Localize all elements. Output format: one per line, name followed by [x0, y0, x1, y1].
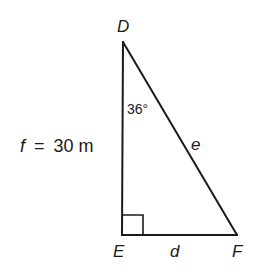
side-f-value: 30 m — [54, 136, 94, 156]
vertex-label-D: D — [117, 17, 129, 36]
side-f-DE — [122, 42, 123, 235]
vertex-label-F: F — [232, 242, 244, 261]
side-f-name: f — [20, 136, 27, 156]
angle-label-D: 36° — [127, 101, 148, 117]
right-triangle-diagram: D E F 36° f = 30 m e d — [0, 0, 257, 278]
side-label-d: d — [170, 242, 180, 261]
right-angle-marker — [122, 215, 143, 235]
vertex-label-E: E — [113, 242, 125, 261]
side-label-f: f = 30 m — [20, 136, 94, 156]
side-label-e: e — [191, 135, 200, 154]
side-e-DF — [123, 42, 237, 235]
side-f-equals: = — [34, 136, 45, 156]
